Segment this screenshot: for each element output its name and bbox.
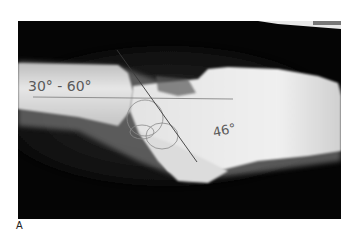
xray-image: 30° - 60° 46° — [18, 21, 341, 219]
panel-label: A — [16, 220, 23, 231]
angle-annotation-range: 30° - 60° — [28, 78, 92, 94]
radiograph-figure: 30° - 60° 46° A — [0, 0, 359, 234]
xray-graphic: 30° - 60° 46° — [18, 21, 341, 219]
